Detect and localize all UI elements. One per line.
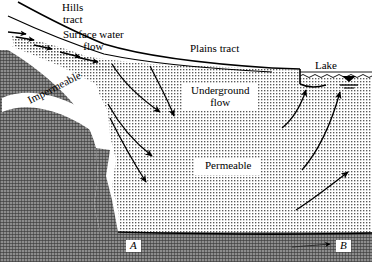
label-surface-water-flow: Surface water flow [63, 29, 124, 53]
label-permeable: Permeable [195, 158, 261, 175]
basal-impermeable-layer [0, 232, 372, 262]
marker-label-b: B [336, 240, 351, 252]
label-hills-tract: Hills tract [62, 2, 83, 26]
label-plains-tract: Plains tract [190, 43, 239, 55]
cross-section-drawing [0, 0, 373, 265]
hydrogeology-cross-section-figure: Hills tract Surface water flow Plains tr… [0, 0, 373, 265]
label-underground-flow: Underground flow [183, 84, 257, 111]
marker-label-a: A [126, 240, 141, 252]
label-lake: Lake [315, 60, 337, 72]
